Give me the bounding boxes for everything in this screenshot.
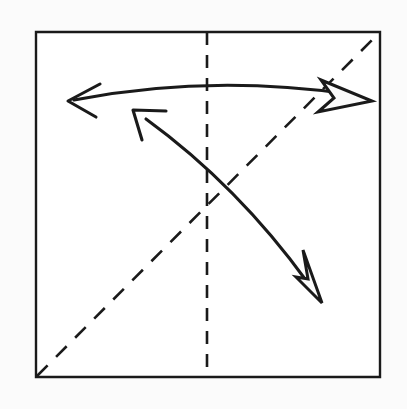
diagram-canvas — [0, 0, 407, 409]
origami-diagram — [0, 0, 407, 409]
